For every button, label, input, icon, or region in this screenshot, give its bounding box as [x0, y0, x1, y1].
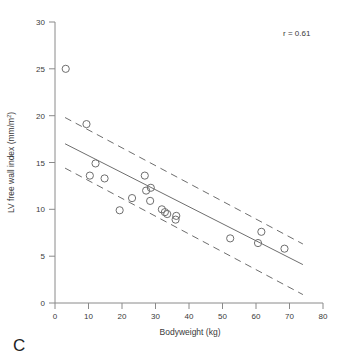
- data-point: [83, 121, 90, 128]
- data-point: [92, 160, 99, 167]
- y-axis-title: LV free wall index (mm/m2): [6, 112, 16, 213]
- data-point: [141, 172, 148, 179]
- figure-panel-c: 30 25 20 15 10 5 0 0 10 20 30 40 50 60: [0, 0, 356, 364]
- correlation-annotation: r = 0.61: [283, 29, 311, 38]
- regression-lines: [65, 118, 303, 295]
- y-tick-label-30: 30: [36, 18, 45, 27]
- scatter-plot: 30 25 20 15 10 5 0 0 10 20 30 40 50 60: [0, 0, 356, 364]
- data-point: [258, 228, 265, 235]
- x-tick-label-0: 0: [53, 312, 58, 321]
- y-tick-label-25: 25: [36, 65, 45, 74]
- axis-lines: [55, 22, 323, 303]
- x-tick-label-20: 20: [118, 312, 127, 321]
- x-tick-label-10: 10: [84, 312, 93, 321]
- y-axis-ticks: 30 25 20 15 10 5 0: [36, 18, 55, 308]
- x-tick-label-30: 30: [151, 312, 160, 321]
- y-tick-label-20: 20: [36, 112, 45, 121]
- y-tick-label-0: 0: [41, 299, 46, 308]
- data-point: [227, 235, 234, 242]
- confidence-band-upper-line: [65, 118, 303, 244]
- x-axis-title: Bodyweight (kg): [160, 327, 221, 337]
- data-point: [116, 207, 123, 214]
- regression-fit-line: [65, 144, 303, 265]
- y-tick-label-5: 5: [41, 252, 46, 261]
- x-tick-label-80: 80: [319, 312, 328, 321]
- y-axis-title-close: ): [6, 112, 16, 115]
- data-point: [128, 194, 135, 201]
- data-point: [147, 197, 154, 204]
- x-tick-label-40: 40: [185, 312, 194, 321]
- y-tick-label-15: 15: [36, 159, 45, 168]
- x-axis-ticks: 0 10 20 30 40 50 60 70 80: [53, 303, 328, 321]
- x-tick-label-70: 70: [285, 312, 294, 321]
- data-point-group: [62, 65, 288, 252]
- confidence-band-lower-line: [65, 168, 303, 294]
- y-tick-label-10: 10: [36, 205, 45, 214]
- data-point: [101, 175, 108, 182]
- data-point: [164, 210, 171, 217]
- x-tick-label-60: 60: [252, 312, 261, 321]
- x-tick-label-50: 50: [218, 312, 227, 321]
- data-point: [86, 172, 93, 179]
- y-axis-title-group: LV free wall index (mm/m2): [6, 112, 16, 213]
- y-axis-title-main: LV free wall index (mm/m: [6, 118, 16, 213]
- data-point: [62, 65, 69, 72]
- data-point: [161, 209, 168, 216]
- data-point: [281, 245, 288, 252]
- panel-label-c: C: [13, 336, 25, 355]
